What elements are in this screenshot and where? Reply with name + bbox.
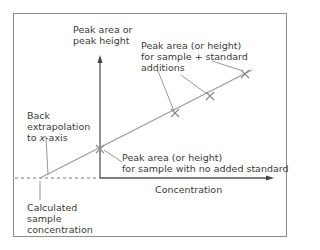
cross-marker-icon [206, 92, 214, 100]
data-point-markers [96, 70, 249, 153]
x-axis-label: Concentration [155, 184, 222, 195]
calculated-concentration-label: Calculated sample concentration [27, 202, 93, 235]
cross-marker-icon [171, 109, 179, 117]
x-axis-arrow-icon [266, 176, 274, 181]
y-axis-arrow-icon [98, 55, 103, 63]
y-axis-label: Peak area or peak height [73, 24, 133, 46]
back-extrapolation-label: Back extrapolation to x-axis [27, 110, 90, 143]
additions-label: Peak area (or height) for sample + stand… [141, 40, 248, 73]
no-standard-label: Peak area (or height) for sample with no… [122, 152, 289, 174]
